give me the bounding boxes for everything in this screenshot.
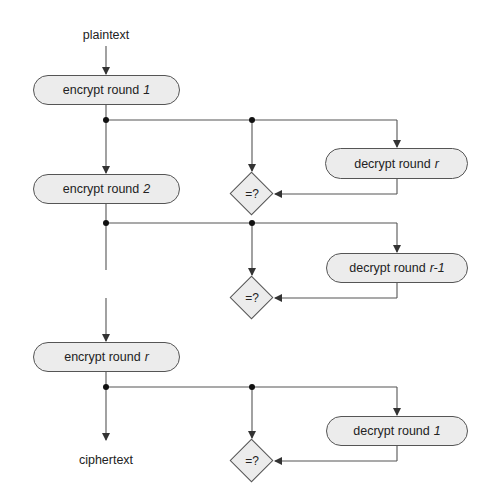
- round-index: 2: [143, 182, 150, 196]
- encrypt-round-2-node: encrypt round2: [33, 174, 180, 204]
- compare-label: =?: [230, 276, 274, 320]
- compare-diamond-3: =?: [230, 439, 274, 483]
- encrypt-round-1-node: encrypt round1: [33, 75, 180, 105]
- round-index: r: [145, 350, 149, 364]
- plaintext-label: plaintext: [83, 28, 130, 42]
- node-label: encrypt round: [63, 83, 139, 97]
- round-index: r: [435, 157, 439, 171]
- encrypt-round-r-node: encrypt roundr: [33, 342, 180, 372]
- compare-diamond-2: =?: [230, 276, 274, 320]
- decrypt-round-r-minus-1-node: decrypt roundr-1: [326, 253, 468, 283]
- compare-diamond-1: =?: [230, 172, 274, 216]
- ciphertext-label: ciphertext: [79, 453, 133, 467]
- flow-diagram: plaintext encrypt round1 encrypt round2 …: [0, 0, 499, 503]
- node-label: encrypt round: [63, 182, 139, 196]
- compare-label: =?: [230, 172, 274, 216]
- round-index: 1: [434, 424, 441, 438]
- node-label: encrypt round: [64, 350, 140, 364]
- decrypt-round-r-node: decrypt roundr: [325, 148, 468, 179]
- decrypt-round-1-node: decrypt round1: [326, 416, 468, 446]
- compare-label: =?: [230, 439, 274, 483]
- node-label: decrypt round: [354, 157, 430, 171]
- node-label: decrypt round: [353, 424, 429, 438]
- node-label: decrypt round: [349, 261, 425, 275]
- round-index: 1: [143, 83, 150, 97]
- round-index: r-1: [430, 261, 445, 275]
